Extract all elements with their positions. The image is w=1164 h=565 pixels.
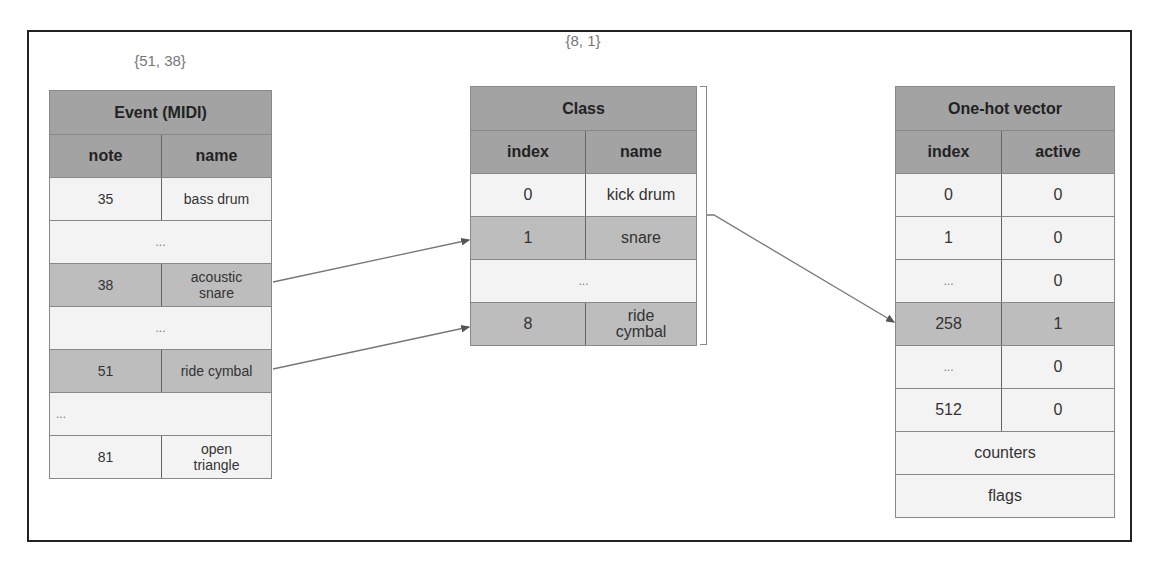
arrow-acoustic-snare-to-snare [273, 240, 469, 282]
arrow-class-to-onehot [707, 215, 894, 322]
arrows-layer [0, 0, 1164, 565]
arrow-ride-cymbal-to-ride-cymbal [273, 327, 469, 369]
